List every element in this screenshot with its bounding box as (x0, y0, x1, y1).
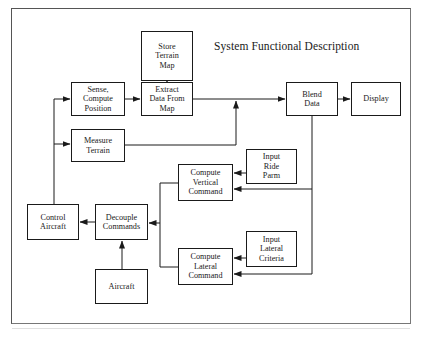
node-decouple-commands: Decouple Commands (95, 204, 148, 240)
node-store-terrain-map: Store Terrain Map (141, 31, 193, 81)
node-measure-terrain: Measure Terrain (71, 129, 125, 162)
diagram-title: System Functional Description (214, 40, 359, 52)
node-input-ride-parm: Input Ride Parm (246, 149, 297, 184)
node-compute-vertical-command: Compute Vertical Command (178, 164, 233, 201)
node-display: Display (351, 82, 401, 116)
node-control-aircraft: Control Aircraft (27, 204, 79, 240)
node-extract-data-from-map: Extract Data From Map (141, 82, 193, 116)
node-compute-lateral-command: Compute Lateral Command (178, 248, 233, 285)
node-sense-compute-position: Sense, Compute Position (71, 82, 125, 116)
node-blend-data: Blend Data (286, 82, 338, 116)
node-input-lateral-criteria: Input Lateral Criteria (246, 231, 297, 267)
node-aircraft: Aircraft (95, 269, 148, 304)
